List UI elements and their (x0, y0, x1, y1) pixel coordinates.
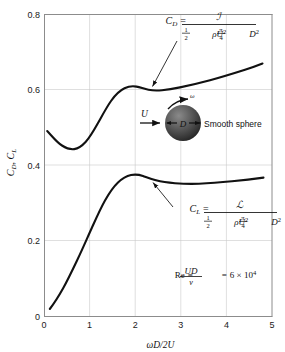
svg-text:ωD/2U: ωD/2U (130, 340, 186, 350)
cl-denom-half-num: 1 (206, 214, 209, 221)
omega-label: ω (190, 92, 195, 99)
reynolds-denominator: ν (189, 278, 193, 287)
x-tick-1: 1 (87, 320, 92, 330)
y-tick-0.6: 0.6 (27, 85, 40, 95)
reynolds-numerator: UD (185, 266, 198, 276)
cl-denom-half-den: 2 (206, 222, 209, 229)
y-axis-title-cl-sub: L (10, 149, 18, 154)
x-tick-3: 3 (178, 320, 183, 330)
diameter-label: D (179, 119, 187, 129)
cd-denom-half-num: 1 (184, 26, 187, 33)
x-tick-5: 5 (269, 320, 274, 330)
y-tick-0: 0 (35, 312, 40, 322)
x-axis-title: ωD/2U (130, 340, 186, 350)
velocity-label: U (141, 109, 149, 119)
x-tick-4: 4 (224, 320, 229, 330)
x-tick-0: 0 (41, 320, 46, 330)
x-axis-title-text: ωD/2U (146, 340, 175, 350)
cd-denom-half-den: 2 (184, 34, 187, 41)
sphere-lift-drag-chart: 0.8 0.6 0.4 0.2 0 0 1 2 3 4 5 ωD/2U CD, … (0, 0, 285, 352)
x-tick-2: 2 (133, 320, 138, 330)
sphere-caption: Smooth sphere (204, 119, 262, 129)
y-tick-0.4: 0.4 (27, 161, 40, 171)
y-tick-0.8: 0.8 (27, 10, 40, 20)
y-tick-0.2: 0.2 (27, 236, 40, 246)
cl-formula-numerator: ℒ (236, 199, 244, 210)
